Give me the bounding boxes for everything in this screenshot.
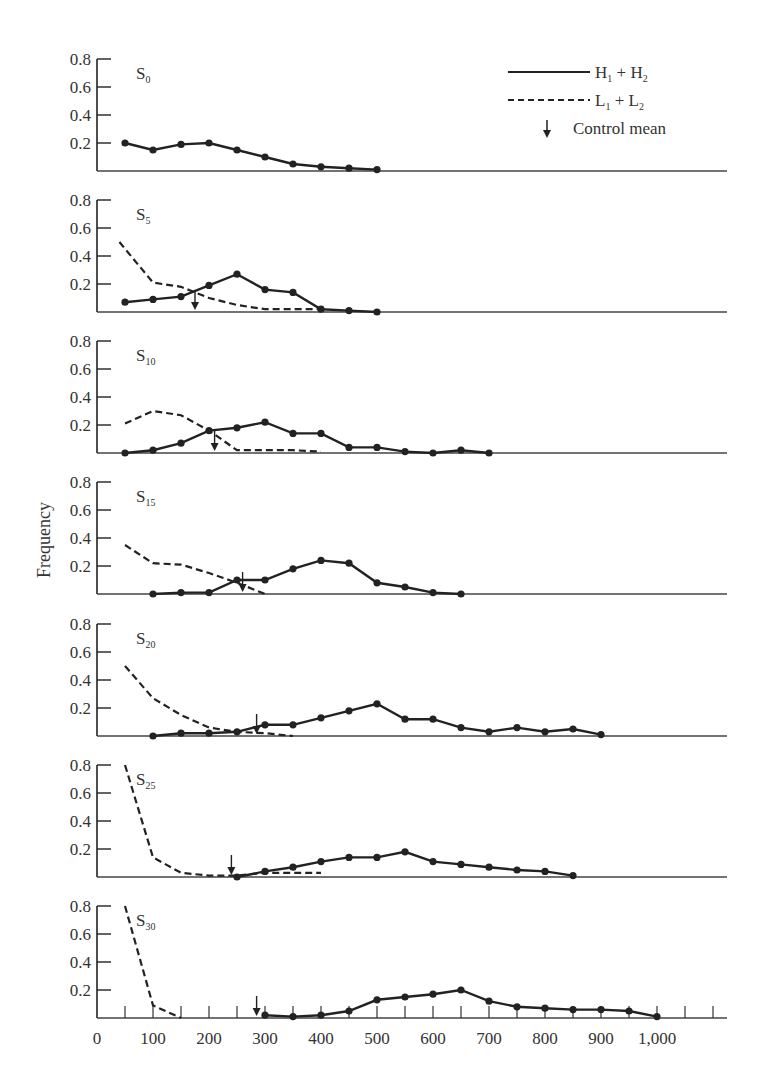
data-point <box>205 139 212 146</box>
data-point <box>345 165 352 172</box>
data-point <box>373 854 380 861</box>
data-point <box>177 730 184 737</box>
data-point <box>177 141 184 148</box>
data-point <box>261 576 268 583</box>
data-point <box>345 560 352 567</box>
data-point <box>653 1013 660 1020</box>
data-point <box>233 576 240 583</box>
y-tick-label: 0.4 <box>70 953 92 972</box>
data-point <box>513 1003 520 1010</box>
y-tick-label: 0.4 <box>70 388 92 407</box>
panels: 0.20.40.60.8S00.20.40.60.8S50.20.40.60.8… <box>70 50 727 1020</box>
data-point <box>541 728 548 735</box>
data-point <box>205 730 212 737</box>
data-point <box>485 998 492 1005</box>
y-tick-label: 0.2 <box>70 275 91 294</box>
data-point <box>205 589 212 596</box>
panel-s25: 0.20.40.60.8S25 <box>70 756 727 881</box>
data-point <box>233 271 240 278</box>
x-tick-label: 200 <box>196 1029 222 1048</box>
data-point <box>233 146 240 153</box>
panel-s15: 0.20.40.60.8S15 <box>70 473 727 598</box>
data-point <box>373 579 380 586</box>
data-point <box>177 440 184 447</box>
data-point <box>373 700 380 707</box>
panel-label: S20 <box>136 629 155 650</box>
y-tick-label: 0.8 <box>70 332 91 351</box>
data-point <box>485 728 492 735</box>
data-point <box>317 557 324 564</box>
legend-control-mean-label: Control mean <box>573 119 667 138</box>
y-tick-label: 0.6 <box>70 925 91 944</box>
data-point <box>317 163 324 170</box>
data-point <box>345 307 352 314</box>
data-point <box>149 732 156 739</box>
data-point <box>569 725 576 732</box>
data-point <box>289 430 296 437</box>
y-axis-title: Frequency <box>34 502 54 578</box>
data-point <box>233 424 240 431</box>
series-h1-h2 <box>125 422 489 453</box>
x-tick-label: 400 <box>308 1029 334 1048</box>
data-point <box>457 986 464 993</box>
data-point <box>513 866 520 873</box>
x-tick-label: 900 <box>588 1029 614 1048</box>
data-point <box>625 1007 632 1014</box>
y-tick-label: 0.6 <box>70 78 91 97</box>
data-point <box>317 430 324 437</box>
data-point <box>541 868 548 875</box>
data-point <box>485 449 492 456</box>
data-point <box>149 447 156 454</box>
y-tick-label: 0.8 <box>70 615 91 634</box>
data-point <box>373 166 380 173</box>
panel-s30: 0.20.40.60.8S30 <box>70 897 727 1020</box>
y-tick-label: 0.6 <box>70 643 91 662</box>
data-point <box>541 1005 548 1012</box>
data-point <box>569 872 576 879</box>
data-point <box>177 589 184 596</box>
data-point <box>121 449 128 456</box>
y-tick-label: 0.2 <box>70 416 91 435</box>
panel-label: S30 <box>136 911 155 932</box>
data-point <box>149 146 156 153</box>
x-tick-label: 0 <box>93 1029 102 1048</box>
x-axis-tick-labels: 01002003004005006007008009001,000 <box>93 1029 676 1048</box>
y-tick-label: 0.2 <box>70 981 91 1000</box>
data-point <box>401 716 408 723</box>
data-point <box>289 289 296 296</box>
data-point <box>485 864 492 871</box>
data-point <box>373 308 380 315</box>
y-tick-label: 0.2 <box>70 840 91 859</box>
data-point <box>597 1006 604 1013</box>
figure: 0.20.40.60.8S00.20.40.60.8S50.20.40.60.8… <box>0 0 766 1084</box>
y-tick-label: 0.8 <box>70 191 91 210</box>
data-point <box>261 419 268 426</box>
y-tick-label: 0.8 <box>70 473 91 492</box>
legend: H1 + H2 L1 + L2 Control mean <box>508 63 667 138</box>
data-point <box>177 293 184 300</box>
data-point <box>457 590 464 597</box>
panel-s20: 0.20.40.60.8S20 <box>70 615 727 740</box>
data-point <box>121 139 128 146</box>
data-point <box>401 848 408 855</box>
data-point <box>233 873 240 880</box>
panel-s10: 0.20.40.60.8S10 <box>70 332 727 457</box>
data-point <box>233 728 240 735</box>
y-tick-label: 0.6 <box>70 360 91 379</box>
data-point <box>401 993 408 1000</box>
data-point <box>289 864 296 871</box>
data-point <box>289 160 296 167</box>
data-point <box>289 721 296 728</box>
y-axis-label: Frequency <box>34 502 54 578</box>
data-point <box>429 716 436 723</box>
panel-label: S25 <box>136 770 155 791</box>
data-point <box>457 861 464 868</box>
data-point <box>345 444 352 451</box>
data-point <box>317 306 324 313</box>
y-tick-label: 0.8 <box>70 50 91 69</box>
y-tick-label: 0.4 <box>70 812 92 831</box>
data-point <box>597 731 604 738</box>
y-tick-label: 0.2 <box>70 134 91 153</box>
data-point <box>513 724 520 731</box>
data-point <box>261 153 268 160</box>
